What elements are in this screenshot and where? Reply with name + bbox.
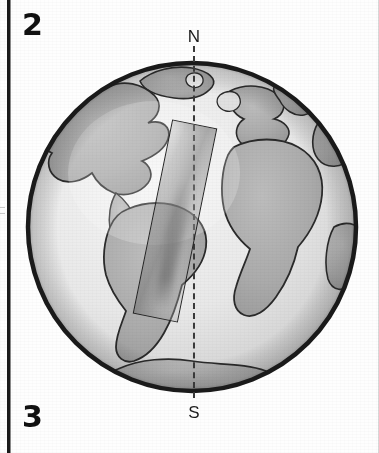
north-pole-label: N: [179, 28, 209, 45]
left-frame-rule-inner: [10, 0, 11, 453]
panel-number-bottom: 3: [22, 402, 43, 432]
figure-canvas: 2 3 N S: [0, 0, 379, 453]
margin-tick: [0, 213, 5, 214]
panel-number-top: 2: [22, 10, 43, 40]
south-pole-label: S: [179, 404, 209, 421]
margin-tick: [0, 207, 5, 208]
